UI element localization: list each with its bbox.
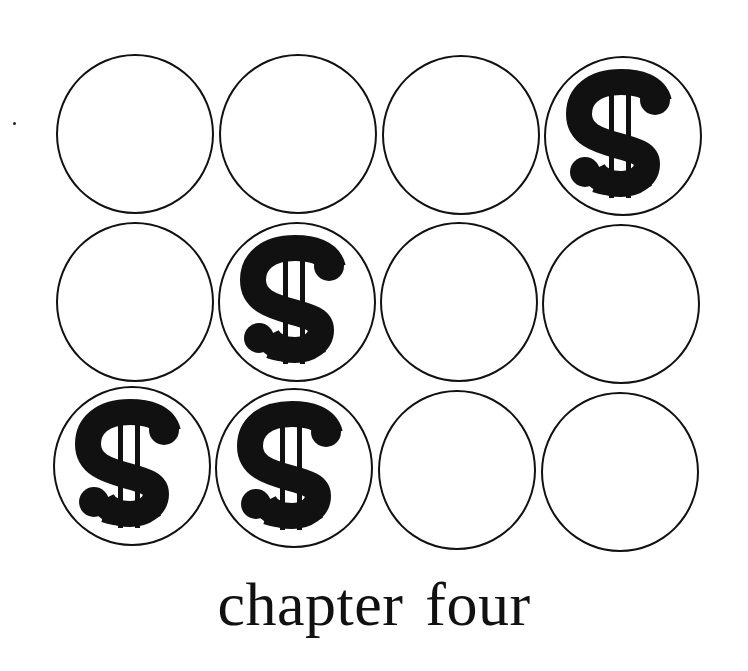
circle-r1-c4 [544, 56, 702, 216]
circle-r2-c2 [218, 222, 376, 382]
circle-r1-c3 [382, 55, 540, 215]
chapter-four-illustration: chapterfour [0, 0, 748, 671]
chapter-title-word-1: chapter [217, 570, 403, 638]
chapter-title: chapterfour [0, 573, 748, 635]
print-speck [13, 122, 16, 125]
circle-r1-c1 [56, 54, 214, 214]
circle-r2-c3 [380, 222, 538, 382]
dollar-sign-icon [72, 398, 192, 534]
circle-r3-c3 [378, 390, 536, 550]
dollar-sign-icon [234, 400, 354, 536]
circle-r3-c4 [541, 392, 699, 552]
circle-r3-c1 [53, 386, 211, 546]
dollar-sign-icon [563, 68, 683, 204]
chapter-title-word-2: four [425, 570, 530, 638]
circle-r2-c1 [56, 222, 214, 382]
circle-r1-c2 [219, 54, 377, 214]
dollar-sign-icon [237, 234, 357, 370]
circle-r2-c4 [542, 224, 700, 384]
circle-r3-c2 [215, 388, 373, 548]
